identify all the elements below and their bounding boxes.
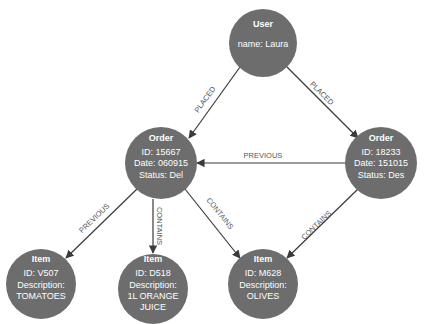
node-title: Item xyxy=(144,254,163,264)
edge-order1-contains-item2: CONTAINS xyxy=(153,199,164,253)
node-property: Status: Des xyxy=(358,170,405,180)
node-item-d518[interactable]: Item ID: D518 Description: 1L ORANGE JUI… xyxy=(118,254,188,324)
node-item-v507[interactable]: Item ID: V507 Description: TOMATOES xyxy=(6,249,76,319)
node-title: User xyxy=(253,19,274,29)
node-property: Description: xyxy=(17,280,65,290)
node-title: Order xyxy=(369,133,394,143)
edge-label: PLACED xyxy=(308,79,336,107)
edge-label: PREVIOUS xyxy=(244,151,283,160)
node-property: Status: Del xyxy=(139,170,183,180)
edge-user-placed-order2: PLACED xyxy=(287,67,358,138)
edge-order2-contains-item3: CONTAINS xyxy=(287,189,358,258)
node-property: TOMATOES xyxy=(16,291,66,301)
graph-diagram: PLACED PLACED PREVIOUS PREVIOUS CONTAINS… xyxy=(0,0,432,324)
node-title: Order xyxy=(149,133,174,143)
node-property: OLIVES xyxy=(247,291,280,301)
node-order-18233[interactable]: Order ID: 18233 Date: 151015 Status: Des xyxy=(345,127,417,199)
node-property: Date: 151015 xyxy=(354,158,408,168)
edge-order1-contains-item3: CONTAINS xyxy=(185,189,240,258)
node-title: Item xyxy=(254,254,273,264)
node-property: 1L ORANGE xyxy=(127,291,178,301)
edge-label: PLACED xyxy=(193,84,218,114)
node-property: ID: 18233 xyxy=(361,147,400,157)
node-property: name: Laura xyxy=(238,39,289,49)
node-property: ID: M628 xyxy=(245,268,282,278)
node-user[interactable]: User name: Laura xyxy=(229,9,297,77)
node-property: Date: 060915 xyxy=(134,158,188,168)
edge-label: CONTAINS xyxy=(299,209,333,242)
edge-label: CONTAINS xyxy=(155,207,164,245)
edge-user-placed-order1: PLACED xyxy=(189,67,240,138)
node-property: ID: 15667 xyxy=(141,147,180,157)
node-property: Description: xyxy=(239,280,287,290)
node-order-15667[interactable]: Order ID: 15667 Date: 060915 Status: Del xyxy=(125,127,197,199)
edge-order2-previous-order1: PREVIOUS xyxy=(197,151,346,163)
edge-order1-previous-item1: PREVIOUS xyxy=(66,189,137,258)
node-property: Description: xyxy=(129,280,177,290)
node-property: JUICE xyxy=(140,302,166,312)
node-item-m628[interactable]: Item ID: M628 Description: OLIVES xyxy=(228,249,298,319)
node-title: Item xyxy=(32,254,51,264)
node-property: ID: V507 xyxy=(23,268,58,278)
edge-label: CONTAINS xyxy=(204,196,235,231)
node-property: ID: D518 xyxy=(135,268,171,278)
